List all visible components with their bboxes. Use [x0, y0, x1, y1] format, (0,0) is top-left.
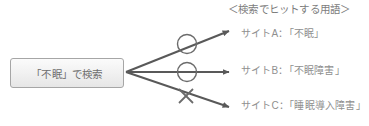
result-label-site-b: サイトB：「不眠障害」 — [241, 65, 345, 77]
result-label-site-a: サイトA：「不眠」 — [241, 28, 324, 40]
cross-mark-icon-c — [179, 89, 193, 103]
arrow-to-site-a — [126, 31, 229, 72]
diagram-canvas: ＜検索でヒットする用語＞ 「不眠」で検索 サイトA：「不眠」 サイトB：「不眠障… — [0, 0, 369, 126]
result-label-site-c: サイトC：「睡眠導入障害」 — [241, 100, 366, 112]
arrow-to-site-c — [126, 72, 229, 107]
